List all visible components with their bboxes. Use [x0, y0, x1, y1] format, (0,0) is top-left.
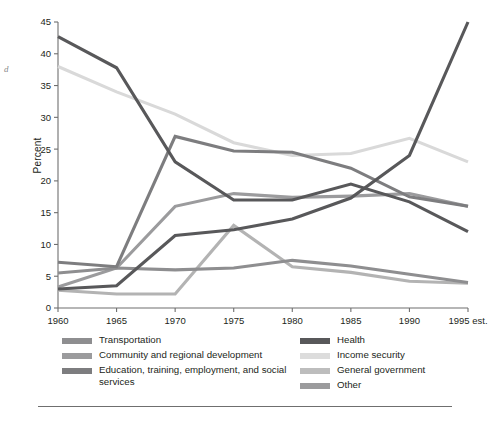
legend-swatch — [300, 368, 330, 374]
series-line — [58, 37, 468, 232]
legend-label: Health — [337, 334, 365, 346]
legend-label: Education, training, employment, and soc… — [99, 364, 302, 387]
x-tick-label: 1985 — [340, 315, 361, 326]
plot-area: Percent 05101520253035404519601965197019… — [0, 0, 490, 330]
legend-item[interactable]: Income security — [300, 349, 490, 361]
x-tick-label: 1965 — [106, 315, 127, 326]
y-tick-label: 0 — [46, 302, 51, 313]
y-tick-label: 35 — [40, 80, 51, 91]
series-line — [58, 22, 468, 289]
legend-column-left: TransportationCommunity and regional dev… — [62, 334, 302, 391]
legend-swatch — [300, 383, 330, 389]
legend-label: Other — [337, 379, 361, 391]
y-tick-label: 10 — [40, 239, 51, 250]
y-tick-label: 15 — [40, 207, 51, 218]
chart-legend: TransportationCommunity and regional dev… — [62, 334, 482, 396]
line-chart: 0510152025303540451960196519701975198019… — [0, 0, 490, 330]
y-tick-label: 45 — [40, 16, 51, 27]
legend-swatch — [62, 368, 92, 374]
legend-label: Income security — [337, 349, 405, 361]
legend-item[interactable]: Health — [300, 334, 490, 346]
legend-item[interactable]: Transportation — [62, 334, 302, 346]
legend-swatch — [300, 353, 330, 359]
x-tick-label: 1990 — [399, 315, 420, 326]
y-tick-label: 30 — [40, 112, 51, 123]
legend-swatch — [62, 338, 92, 344]
legend-item[interactable]: Education, training, employment, and soc… — [62, 364, 302, 387]
y-tick-label: 5 — [46, 271, 51, 282]
legend-label: Community and regional development — [99, 349, 262, 361]
chart-page: d Percent 051015202530354045196019651970… — [0, 0, 490, 421]
footer-rule — [38, 406, 452, 407]
legend-column-right: HealthIncome securityGeneral governmentO… — [300, 334, 490, 394]
series-line — [58, 66, 468, 161]
legend-item[interactable]: General government — [300, 364, 490, 376]
legend-swatch — [62, 353, 92, 359]
legend-swatch — [300, 338, 330, 344]
legend-item[interactable]: Other — [300, 379, 490, 391]
y-tick-label: 20 — [40, 175, 51, 186]
x-tick-label: 1960 — [47, 315, 68, 326]
y-tick-label: 25 — [40, 144, 51, 155]
x-tick-label: 1970 — [165, 315, 186, 326]
legend-label: Transportation — [99, 334, 161, 346]
x-tick-label: 1980 — [282, 315, 303, 326]
x-tick-label: 1975 — [223, 315, 244, 326]
x-tick-label: 1995 est. — [448, 315, 487, 326]
y-tick-label: 40 — [40, 48, 51, 59]
legend-label: General government — [337, 364, 425, 376]
legend-item[interactable]: Community and regional development — [62, 349, 302, 361]
